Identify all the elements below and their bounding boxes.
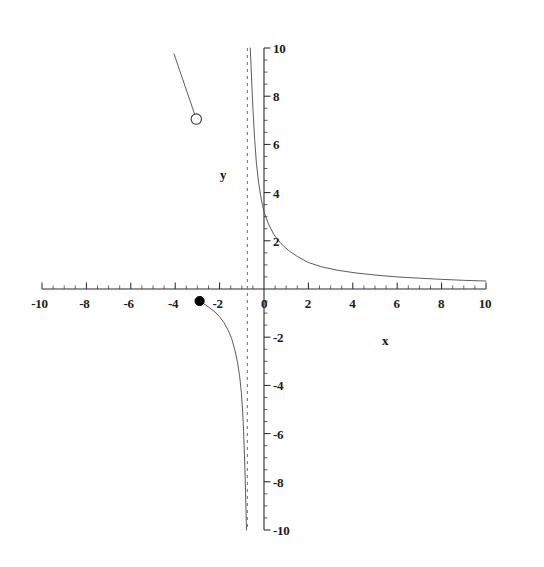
y-tick-label: 4 xyxy=(273,187,279,200)
y-tick-label: 10 xyxy=(273,42,285,55)
x-tick-label: 2 xyxy=(305,297,311,310)
y-tick-label: 2 xyxy=(273,235,279,248)
y-tick-label: -4 xyxy=(273,379,283,392)
x-tick-label: -10 xyxy=(31,297,47,310)
x-tick-label: 6 xyxy=(394,297,400,310)
x-tick-label: -4 xyxy=(168,297,178,310)
x-tick-label: 4 xyxy=(349,297,355,310)
y-tick-label: 8 xyxy=(273,90,279,103)
x-tick-label: 10 xyxy=(479,297,491,310)
y-tick-label: -6 xyxy=(273,428,283,441)
x-tick-label: 0 xyxy=(261,297,267,310)
x-tick-label: -2 xyxy=(212,297,222,310)
x-tick-label: -8 xyxy=(79,297,89,310)
y-tick-label: -8 xyxy=(273,476,283,489)
x-axis-label: x xyxy=(382,334,389,347)
plot-area xyxy=(0,0,544,567)
y-tick-label: -10 xyxy=(273,524,289,537)
y-axis-label: y xyxy=(220,168,227,181)
x-tick-label: 8 xyxy=(438,297,444,310)
y-tick-label: -2 xyxy=(273,331,283,344)
point-markers xyxy=(191,114,204,306)
x-tick-label: -6 xyxy=(124,297,134,310)
y-tick-label: 6 xyxy=(273,138,279,151)
chart-canvas: -10-8-6-4-20246810 -10-8-6-4-2246810 y x xyxy=(0,0,544,567)
